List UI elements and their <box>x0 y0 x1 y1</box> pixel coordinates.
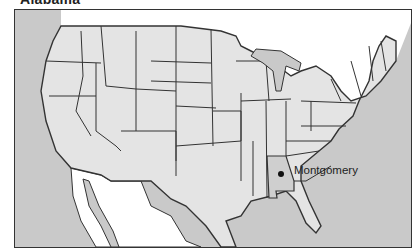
map-svg <box>15 10 411 247</box>
map-title: Alabama <box>20 0 80 7</box>
capital-label: Montgomery <box>294 164 358 176</box>
capital-marker <box>278 171 284 177</box>
us-map <box>14 9 412 248</box>
